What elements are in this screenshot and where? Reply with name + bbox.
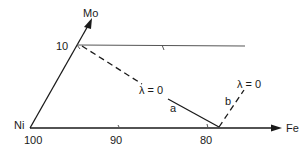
iso-mo-10-line — [77, 45, 245, 46]
ni-vertex-label: Ni — [14, 119, 24, 131]
dashed-boundary-upper — [82, 46, 142, 84]
fe-axis-arrowhead — [271, 125, 282, 132]
ternary-diagram: Mo 10 Ni 100 90 80 Fe λ = 0 a b λ = 0 — [0, 0, 306, 149]
tick-label-10: 10 — [56, 40, 68, 52]
curve-b-line — [219, 90, 244, 127]
mo-axis-label: Mo — [83, 7, 98, 19]
curve-a-label: a — [170, 102, 177, 114]
fe-axis-label: Fe — [286, 122, 299, 134]
mo-axis-arrowhead — [84, 18, 92, 29]
curve-b-label: b — [225, 95, 231, 107]
tick-mark-10 — [77, 45, 80, 49]
tick-label-100: 100 — [24, 134, 42, 146]
tick-label-80: 80 — [200, 134, 212, 146]
lambda-zero-label-a: λ = 0 — [139, 84, 163, 96]
tick-label-90: 90 — [110, 134, 122, 146]
lambda-zero-label-b: λ = 0 — [237, 78, 261, 90]
